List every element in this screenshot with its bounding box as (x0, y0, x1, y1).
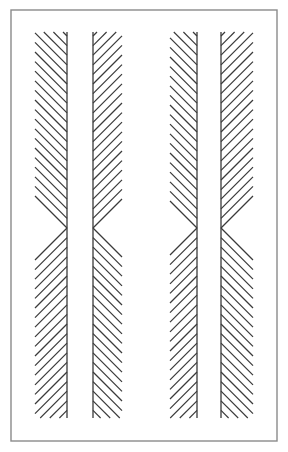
figure-plate (0, 0, 288, 452)
pattern-drawing (0, 0, 288, 452)
plate-background (0, 0, 288, 452)
